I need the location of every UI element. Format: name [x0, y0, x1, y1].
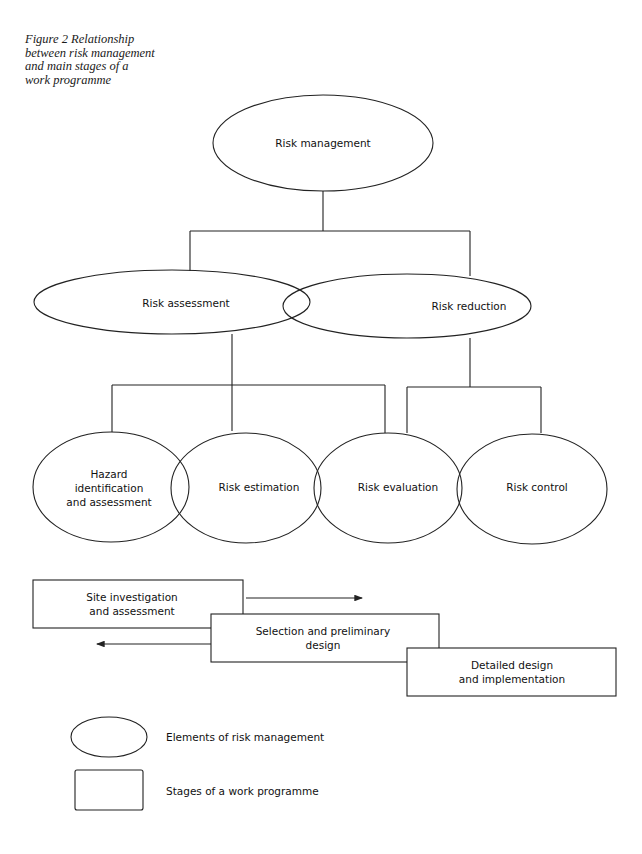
stage-label-line: and implementation — [459, 672, 565, 686]
risk-assessment-label: Risk assessment — [142, 296, 229, 310]
legend-ellipse-icon — [71, 717, 147, 757]
stage-label-line: design — [256, 638, 391, 652]
risk-estimation-label: Risk estimation — [219, 480, 300, 494]
stage-label-line: and assessment — [86, 604, 177, 618]
legend-rect-label: Stages of a work programme — [166, 785, 319, 797]
connector — [112, 334, 385, 433]
stage-selection-label: Selection and preliminary design — [256, 624, 391, 652]
hazard-label-line: identification — [66, 481, 151, 495]
legend-ellipse-label: Elements of risk management — [166, 731, 324, 743]
connector — [407, 338, 541, 433]
stage-label-line: Selection and preliminary — [256, 624, 391, 638]
hazard-label: Hazard identification and assessment — [66, 467, 151, 509]
risk-control-label: Risk control — [506, 480, 568, 494]
risk-management-label: Risk management — [275, 136, 370, 150]
connector — [190, 191, 470, 276]
hazard-label-line: Hazard — [66, 467, 151, 481]
legend-rect-icon — [75, 770, 143, 810]
stage-label-line: Site investigation — [86, 590, 177, 604]
diagram-canvas — [0, 0, 642, 854]
risk-reduction-label: Risk reduction — [432, 299, 507, 313]
risk-evaluation-label: Risk evaluation — [358, 480, 438, 494]
stage-detailed-label: Detailed design and implementation — [459, 658, 565, 686]
hazard-label-line: and assessment — [66, 495, 151, 509]
stage-site-label: Site investigation and assessment — [86, 590, 177, 618]
stage-label-line: Detailed design — [459, 658, 565, 672]
